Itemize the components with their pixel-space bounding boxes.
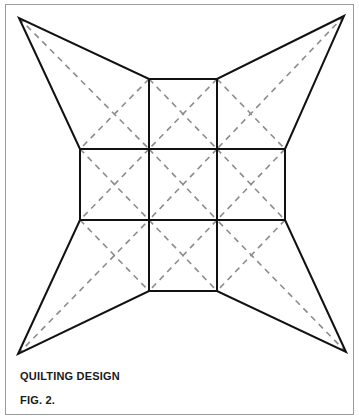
figure-label: FIG. 2.	[20, 394, 55, 406]
figure-title: QUILTING DESIGN	[20, 370, 120, 382]
dashed-diagonals	[18, 16, 346, 354]
quilting-design-diagram	[0, 0, 359, 419]
